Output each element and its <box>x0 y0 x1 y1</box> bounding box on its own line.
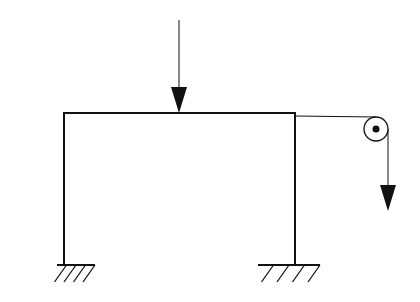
diagram-canvas <box>0 0 420 302</box>
beam-point-load-arrow-icon <box>171 20 187 113</box>
pulley-axle <box>373 126 380 133</box>
pulley-icon <box>364 117 388 141</box>
left-fixed-support-icon <box>55 265 96 282</box>
cable-horizontal <box>295 116 376 117</box>
cable-hanging-load-arrow-icon <box>380 185 396 211</box>
supports <box>55 265 321 282</box>
right-fixed-support-icon <box>258 265 320 282</box>
portal-frame <box>64 113 295 265</box>
frame-diagram <box>0 0 420 302</box>
loads <box>171 20 396 211</box>
